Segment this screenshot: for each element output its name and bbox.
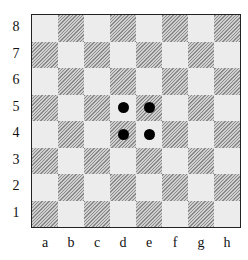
square-c8[interactable] [84, 15, 110, 42]
square-a5[interactable] [32, 95, 58, 122]
file-label: a [32, 236, 58, 250]
square-a8[interactable] [32, 15, 58, 42]
square-h6[interactable] [214, 68, 240, 95]
square-c3[interactable] [84, 148, 110, 175]
square-d6[interactable] [110, 68, 136, 95]
square-h3[interactable] [214, 148, 240, 175]
square-d5[interactable] [110, 95, 136, 122]
file-label: e [136, 236, 162, 250]
square-b8[interactable] [58, 15, 84, 42]
square-c4[interactable] [84, 121, 110, 148]
black-disc-piece-icon[interactable] [144, 129, 155, 140]
rank-label: 4 [8, 126, 24, 140]
square-g7[interactable] [188, 42, 214, 69]
square-g1[interactable] [188, 201, 214, 228]
square-e5[interactable] [136, 95, 162, 122]
square-e7[interactable] [136, 42, 162, 69]
square-d4[interactable] [110, 121, 136, 148]
rank-label: 5 [8, 100, 24, 114]
square-e2[interactable] [136, 174, 162, 201]
square-c5[interactable] [84, 95, 110, 122]
square-f1[interactable] [162, 201, 188, 228]
square-c7[interactable] [84, 42, 110, 69]
rank-label: 8 [8, 20, 24, 34]
square-g8[interactable] [188, 15, 214, 42]
square-a3[interactable] [32, 148, 58, 175]
square-c1[interactable] [84, 201, 110, 228]
square-g5[interactable] [188, 95, 214, 122]
square-h4[interactable] [214, 121, 240, 148]
black-disc-piece-icon[interactable] [118, 129, 129, 140]
square-h5[interactable] [214, 95, 240, 122]
black-disc-piece-icon[interactable] [118, 102, 129, 113]
square-b7[interactable] [58, 42, 84, 69]
square-d7[interactable] [110, 42, 136, 69]
square-h1[interactable] [214, 201, 240, 228]
square-h7[interactable] [214, 42, 240, 69]
square-h2[interactable] [214, 174, 240, 201]
square-f5[interactable] [162, 95, 188, 122]
black-disc-piece-icon[interactable] [144, 102, 155, 113]
square-e6[interactable] [136, 68, 162, 95]
square-f7[interactable] [162, 42, 188, 69]
square-f8[interactable] [162, 15, 188, 42]
square-e1[interactable] [136, 201, 162, 228]
rank-label: 6 [8, 73, 24, 87]
rank-label: 1 [8, 206, 24, 220]
square-f3[interactable] [162, 148, 188, 175]
square-g6[interactable] [188, 68, 214, 95]
square-f4[interactable] [162, 121, 188, 148]
square-e8[interactable] [136, 15, 162, 42]
square-b3[interactable] [58, 148, 84, 175]
rank-label: 3 [8, 153, 24, 167]
square-f2[interactable] [162, 174, 188, 201]
square-h8[interactable] [214, 15, 240, 42]
file-label: b [58, 236, 84, 250]
file-label: d [110, 236, 136, 250]
square-b2[interactable] [58, 174, 84, 201]
square-d1[interactable] [110, 201, 136, 228]
square-a4[interactable] [32, 121, 58, 148]
square-a2[interactable] [32, 174, 58, 201]
square-a6[interactable] [32, 68, 58, 95]
square-e3[interactable] [136, 148, 162, 175]
rank-label: 7 [8, 47, 24, 61]
square-d2[interactable] [110, 174, 136, 201]
square-b5[interactable] [58, 95, 84, 122]
square-g3[interactable] [188, 148, 214, 175]
square-d3[interactable] [110, 148, 136, 175]
rank-label: 2 [8, 179, 24, 193]
square-g4[interactable] [188, 121, 214, 148]
square-a7[interactable] [32, 42, 58, 69]
square-b6[interactable] [58, 68, 84, 95]
square-a1[interactable] [32, 201, 58, 228]
square-g2[interactable] [188, 174, 214, 201]
square-e4[interactable] [136, 121, 162, 148]
square-c6[interactable] [84, 68, 110, 95]
square-b1[interactable] [58, 201, 84, 228]
file-label: g [188, 236, 214, 250]
file-label: c [84, 236, 110, 250]
square-c2[interactable] [84, 174, 110, 201]
square-b4[interactable] [58, 121, 84, 148]
file-label: h [214, 236, 240, 250]
square-f6[interactable] [162, 68, 188, 95]
file-label: f [162, 236, 188, 250]
chessboard [31, 14, 241, 228]
square-d8[interactable] [110, 15, 136, 42]
